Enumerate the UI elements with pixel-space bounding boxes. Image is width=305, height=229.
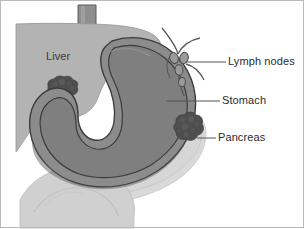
lymph-vessel-branch-right	[178, 38, 200, 54]
label-stomach: Stomach	[222, 94, 266, 106]
label-pancreas: Pancreas	[218, 131, 265, 143]
anatomy-illustration	[0, 0, 305, 229]
label-lymph-nodes: Lymph nodes	[228, 55, 295, 67]
label-liver: Liver	[46, 50, 70, 62]
figure-canvas: Liver Lymph nodes Stomach Pancreas	[0, 0, 305, 229]
